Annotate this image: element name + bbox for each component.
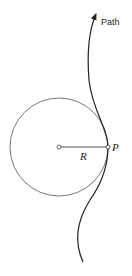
path-curve: [78, 14, 108, 262]
path-label: Path: [101, 17, 120, 27]
center-point: [57, 145, 61, 149]
point-label: P: [111, 141, 119, 153]
osculating-circle-diagram: Path R P: [0, 0, 132, 276]
point-p: [106, 145, 110, 149]
radius-label: R: [79, 150, 87, 162]
